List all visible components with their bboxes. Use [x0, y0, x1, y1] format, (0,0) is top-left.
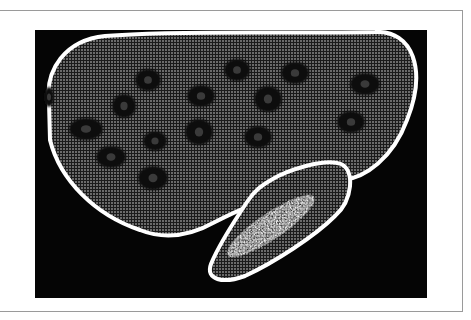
- lesion: [135, 69, 161, 91]
- lesion: [96, 146, 126, 168]
- lesion: [281, 62, 309, 84]
- lesion: [112, 94, 136, 118]
- lesion: [138, 166, 168, 190]
- lesion: [254, 86, 282, 112]
- lesion: [350, 73, 380, 95]
- lesion: [143, 131, 167, 151]
- lesion: [44, 87, 54, 107]
- lesion: [244, 126, 272, 148]
- lesion: [187, 85, 215, 107]
- lesion: [337, 111, 365, 133]
- scan-image: [35, 30, 427, 298]
- lesion: [224, 59, 250, 81]
- lesion: [185, 119, 213, 145]
- lesion: [69, 118, 103, 140]
- scan-panel: [35, 30, 427, 298]
